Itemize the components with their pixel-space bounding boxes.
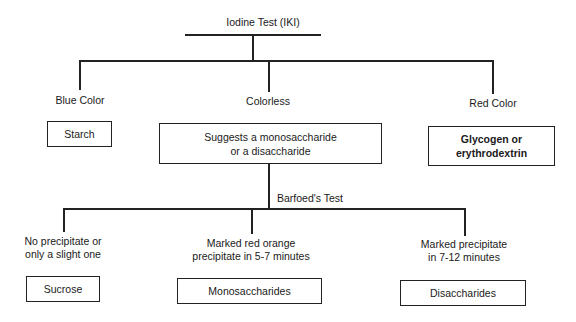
result-glycogen-line1: Glycogen or: [461, 132, 522, 146]
level2-branch-line: [63, 208, 465, 210]
condition-no-precipitate-line2: only a slight one: [24, 248, 101, 261]
branch-blue-line: [79, 60, 81, 90]
result-sucrose-label: Sucrose: [44, 282, 83, 296]
result-colorless-box: Suggests a monosaccharide or a disacchar…: [159, 123, 382, 164]
level1-branch-line: [79, 60, 493, 62]
branch-marked-precipitate-line: [464, 208, 466, 236]
condition-red-orange-line1: Marked red orange: [192, 237, 309, 250]
result-colorless-line2: or a disaccharide: [231, 144, 311, 158]
secondary-test-label: Barfoed's Test: [277, 192, 343, 205]
condition-red-color: Red Color: [469, 97, 516, 110]
condition-red-orange: Marked red orange precipitate in 5-7 min…: [192, 237, 309, 263]
condition-marked-precipitate: Marked precipitate in 7-12 minutes: [421, 238, 507, 264]
condition-no-precipitate: No precipitate or only a slight one: [24, 235, 101, 261]
root-stem-line: [252, 34, 254, 61]
condition-blue-color: Blue Color: [55, 94, 104, 107]
result-disaccharides-label: Disaccharides: [430, 286, 496, 300]
condition-marked-precipitate-line1: Marked precipitate: [421, 238, 507, 251]
result-colorless-line1: Suggests a monosaccharide: [204, 130, 337, 144]
result-disaccharides-box: Disaccharides: [400, 280, 526, 306]
branch-colorless-line: [268, 60, 270, 92]
result-starch-box: Starch: [47, 121, 112, 147]
branch-red-line: [492, 60, 494, 94]
condition-no-precipitate-line1: No precipitate or: [24, 235, 101, 248]
condition-marked-precipitate-line2: in 7-12 minutes: [421, 251, 507, 264]
result-monosaccharides-label: Monosaccharides: [208, 284, 290, 298]
result-monosaccharides-box: Monosaccharides: [177, 278, 322, 304]
result-sucrose-box: Sucrose: [26, 276, 100, 302]
branch-red-orange-line: [251, 208, 253, 234]
condition-colorless: Colorless: [246, 95, 290, 108]
result-glycogen-box: Glycogen or erythrodextrin: [428, 126, 555, 166]
branch-no-precipitate-line: [63, 208, 65, 232]
result-glycogen-line2: erythrodextrin: [456, 146, 527, 160]
condition-red-orange-line2: precipitate in 5-7 minutes: [192, 250, 309, 263]
root-test-label: Iodine Test (IKI): [226, 16, 299, 29]
secondary-stem-line: [268, 164, 270, 208]
result-starch-label: Starch: [64, 127, 94, 141]
